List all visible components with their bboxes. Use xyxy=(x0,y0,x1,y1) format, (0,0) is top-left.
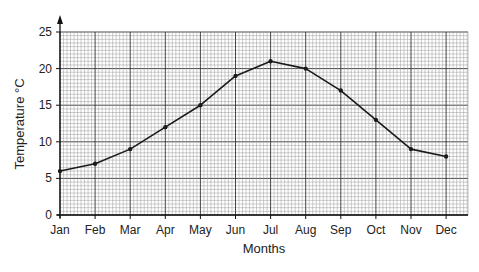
data-point xyxy=(374,118,378,122)
x-tick-label: Aug xyxy=(295,223,316,237)
data-point xyxy=(163,125,167,129)
data-point xyxy=(58,169,62,173)
y-tick-label: 10 xyxy=(39,135,53,149)
x-tick-label: Jun xyxy=(226,223,245,237)
x-tick-label: Dec xyxy=(435,223,456,237)
data-point xyxy=(409,147,413,151)
data-point xyxy=(233,74,237,78)
x-tick-label: Nov xyxy=(400,223,421,237)
data-point xyxy=(268,59,272,63)
x-tick-label: Jul xyxy=(263,223,278,237)
data-point xyxy=(339,88,343,92)
x-tick-label: Mar xyxy=(120,223,141,237)
x-tick-label: Apr xyxy=(156,223,175,237)
x-axis-ticks: JanFebMarAprMayJunJulAugSepOctNovDec xyxy=(50,215,456,237)
axes xyxy=(57,15,468,218)
x-axis-title: Months xyxy=(243,241,286,256)
x-tick-label: Feb xyxy=(85,223,106,237)
y-tick-label: 0 xyxy=(45,208,52,222)
y-tick-label: 5 xyxy=(45,171,52,185)
data-point xyxy=(128,147,132,151)
graph-paper-grid xyxy=(60,32,468,215)
data-point xyxy=(198,103,202,107)
data-point xyxy=(444,154,448,158)
x-tick-label: Oct xyxy=(367,223,386,237)
y-axis-ticks: 0510152025 xyxy=(39,25,60,222)
data-point xyxy=(93,162,97,166)
line-chart: 0510152025 JanFebMarAprMayJunJulAugSepOc… xyxy=(0,0,479,272)
x-tick-label: Jan xyxy=(50,223,69,237)
x-tick-label: Sep xyxy=(330,223,352,237)
y-tick-label: 15 xyxy=(39,98,53,112)
y-axis-title: Temperature °C xyxy=(12,78,27,169)
y-tick-label: 20 xyxy=(39,62,53,76)
x-tick-label: May xyxy=(189,223,212,237)
y-tick-label: 25 xyxy=(39,25,53,39)
data-point xyxy=(304,66,308,70)
